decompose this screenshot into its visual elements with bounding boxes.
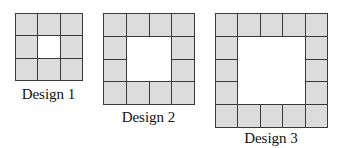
tile xyxy=(15,35,38,58)
tile xyxy=(215,59,238,83)
tile xyxy=(103,36,127,60)
tile xyxy=(103,81,127,105)
tile xyxy=(282,13,305,37)
design-3-label: Design 3 xyxy=(215,130,327,147)
tile xyxy=(215,13,238,37)
tile xyxy=(237,104,260,128)
tile xyxy=(215,104,238,128)
tile xyxy=(171,59,195,83)
design-1-label: Design 1 xyxy=(15,86,82,103)
tile xyxy=(149,81,173,105)
tile xyxy=(37,58,60,81)
tile xyxy=(171,81,195,105)
tile xyxy=(60,35,83,58)
tile xyxy=(260,13,283,37)
tile xyxy=(215,81,238,105)
tile xyxy=(103,59,127,83)
tile xyxy=(60,58,83,81)
tile xyxy=(305,13,328,37)
tile xyxy=(171,13,195,37)
tile xyxy=(37,13,60,36)
design-2-label: Design 2 xyxy=(103,109,194,126)
tile xyxy=(171,36,195,60)
tile xyxy=(260,104,283,128)
tile xyxy=(60,13,83,36)
tile xyxy=(305,59,328,83)
tile xyxy=(15,13,38,36)
tile xyxy=(126,81,150,105)
tile xyxy=(149,13,173,37)
tile xyxy=(305,81,328,105)
tile xyxy=(215,36,238,60)
tile xyxy=(103,13,127,37)
tile xyxy=(15,58,38,81)
tile xyxy=(305,104,328,128)
tile xyxy=(237,13,260,37)
tile xyxy=(305,36,328,60)
tile xyxy=(282,104,305,128)
tile xyxy=(126,13,150,37)
